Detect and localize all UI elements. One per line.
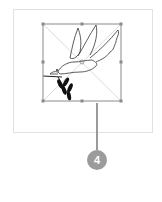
callout-badge: 4 (87, 150, 107, 170)
dove-icon (50, 25, 119, 74)
resize-handle-right[interactable] (120, 61, 123, 64)
resize-handle-top-left[interactable] (42, 23, 45, 26)
resize-handle-bottom[interactable] (81, 100, 84, 103)
resize-handle-bottom-left[interactable] (42, 100, 45, 103)
selected-image[interactable] (0, 0, 162, 202)
resize-handle-left[interactable] (42, 61, 45, 64)
callout-number: 4 (94, 154, 100, 166)
resize-handle-bottom-right[interactable] (120, 100, 123, 103)
callout-line (96, 103, 98, 150)
resize-handle-top[interactable] (81, 23, 84, 26)
resize-handle-top-right[interactable] (120, 23, 123, 26)
